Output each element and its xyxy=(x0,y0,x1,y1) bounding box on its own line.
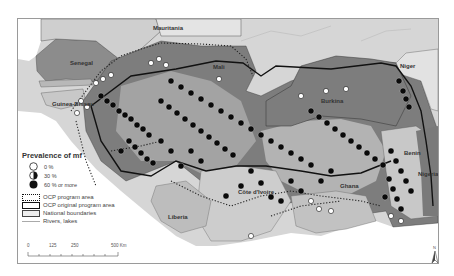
legend-item-60pct: 60 % or more xyxy=(22,180,162,189)
dotted-box-icon xyxy=(22,194,40,201)
label-mauritania: Mauritania xyxy=(153,25,183,31)
thin-box-icon xyxy=(22,210,40,217)
label-liberia: Liberia xyxy=(168,214,188,220)
legend-ocp-original-area: OCP original program area xyxy=(22,201,162,209)
scale-tick-0: 0 xyxy=(27,243,30,248)
empty-circle-icon xyxy=(22,162,44,171)
legend-rivers-lakes: Rivers, lakes xyxy=(22,217,162,225)
label-niger: Niger xyxy=(400,63,415,69)
label-burkina: Burkina xyxy=(321,98,343,104)
legend-item-30pct: 30 % xyxy=(22,171,162,180)
legend-ocp-program-area: OCP program area xyxy=(22,193,162,201)
label-mali: Mali xyxy=(213,64,225,70)
filled-circle-icon xyxy=(22,180,44,189)
north-arrow-icon: N xyxy=(430,248,439,264)
legend-item-label: 30 % xyxy=(44,173,57,179)
map-frame: Mauritania Senegal Mali Niger Guinea-Bis… xyxy=(17,18,439,264)
label-guinea-bissau: Guinea-Bissau xyxy=(52,101,94,107)
half-circle-icon xyxy=(22,171,44,180)
label-cote-divoire: Côte d'Ivoire xyxy=(238,189,274,195)
legend-national-boundaries: National boundaries xyxy=(22,209,162,217)
scale-tick-500: 500 Km xyxy=(111,243,127,248)
legend: Prevalence of mf 0 % 30 % 60 % or more O… xyxy=(22,151,162,225)
river-line-icon xyxy=(22,221,40,222)
label-nigeria: Nigeria xyxy=(418,171,438,177)
legend-title: Prevalence of mf xyxy=(22,151,162,160)
label-ghana: Ghana xyxy=(340,183,359,189)
label-benin: Benin xyxy=(404,150,421,156)
legend-item-0pct: 0 % xyxy=(22,162,162,171)
scale-tick-250: 250 xyxy=(71,243,79,248)
label-senegal: Senegal xyxy=(70,60,93,66)
legend-item-label: 0 % xyxy=(44,164,53,170)
thick-box-icon xyxy=(22,202,40,209)
map-canvas xyxy=(18,19,438,263)
scale-bar: 0 125 250 500 Km xyxy=(26,243,146,259)
scale-ruler xyxy=(26,250,126,258)
legend-item-label: 60 % or more xyxy=(44,182,77,188)
scale-tick-125: 125 xyxy=(49,243,57,248)
